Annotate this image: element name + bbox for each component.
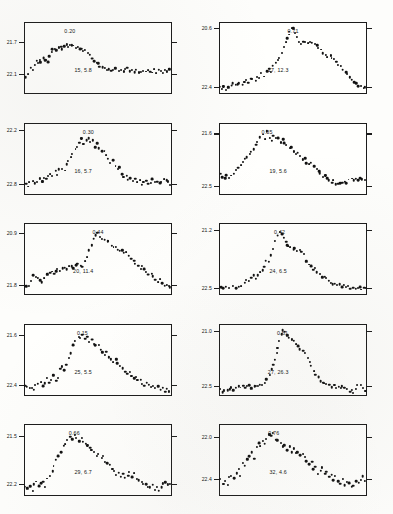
data-point [155, 72, 157, 74]
data-point [150, 182, 152, 184]
data-point [222, 483, 224, 485]
data-point [112, 361, 114, 363]
data-point [348, 482, 351, 485]
data-point [276, 439, 279, 442]
data-point [66, 439, 68, 441]
data-point [280, 442, 282, 444]
data-point [240, 387, 242, 389]
data-point [94, 344, 97, 347]
data-point [58, 168, 60, 170]
data-point [151, 72, 153, 74]
data-point [235, 387, 237, 389]
data-point [246, 458, 248, 460]
data-point [145, 71, 147, 73]
data-point [70, 157, 72, 159]
data-point [233, 477, 236, 480]
y-axis-tick-right [172, 385, 177, 386]
data-point [343, 484, 346, 487]
data-point [89, 141, 91, 143]
data-point [140, 268, 142, 270]
data-point [280, 141, 282, 143]
data-point [27, 73, 29, 75]
data-point [67, 46, 69, 48]
y-axis-tick-label: 21.2 [202, 227, 212, 233]
data-point [168, 390, 170, 392]
data-point [142, 483, 144, 485]
data-point [360, 85, 362, 87]
data-point [334, 475, 336, 477]
data-point [85, 260, 87, 262]
data-point [72, 344, 75, 347]
data-point [39, 61, 41, 63]
y-axis-tick-left [214, 230, 219, 231]
light-curve-panel: 21.622.40.1525, 5.5 [24, 324, 172, 396]
data-point [310, 162, 312, 164]
y-axis-tick-left [19, 335, 24, 336]
data-point [290, 146, 293, 149]
data-point [286, 37, 289, 40]
data-point [135, 69, 137, 71]
data-point [291, 451, 293, 453]
data-point [224, 177, 227, 180]
data-point [321, 49, 323, 51]
data-point [364, 390, 366, 392]
data-point [59, 368, 61, 370]
data-point [275, 62, 277, 64]
data-point [276, 352, 278, 354]
data-point [81, 437, 83, 439]
data-point [26, 487, 28, 489]
data-point [310, 365, 312, 367]
data-point [137, 479, 140, 482]
data-point [51, 51, 53, 53]
y-axis-tick-label: 22.4 [202, 476, 212, 482]
data-point [240, 285, 242, 287]
data-point [308, 463, 311, 466]
data-point [120, 69, 122, 71]
data-point [250, 151, 252, 153]
light-curve-panel: 21.522.20.6629, 6.7 [24, 424, 172, 496]
y-axis-tick-right [367, 288, 372, 289]
data-point [261, 269, 264, 272]
y-axis-tick-left [214, 479, 219, 480]
data-point [348, 179, 350, 181]
y-axis-tick-label: 22.2 [7, 481, 17, 487]
data-point [65, 268, 68, 271]
data-point [287, 336, 290, 339]
data-point [317, 473, 319, 475]
data-point [55, 379, 57, 381]
star-id-label: 29, 6.7 [74, 469, 92, 475]
data-point [117, 471, 119, 473]
data-point [27, 186, 29, 188]
data-point [38, 485, 41, 488]
data-point [240, 164, 242, 166]
data-point [96, 455, 98, 457]
data-point [255, 445, 257, 447]
data-point [118, 166, 120, 168]
data-point [127, 254, 130, 257]
data-point [133, 472, 135, 474]
data-point [88, 54, 90, 56]
data-point [54, 169, 56, 171]
data-point [316, 271, 319, 274]
data-point [296, 250, 298, 252]
light-curve-panel: 20.921.80.4420, 11.4 [24, 223, 172, 295]
data-point [93, 451, 95, 453]
data-point [309, 361, 311, 363]
data-point [332, 479, 335, 482]
data-point [91, 244, 93, 246]
y-axis-tick-left [19, 42, 24, 43]
amplitude-label: 0.20 [64, 28, 75, 34]
data-point [132, 180, 134, 182]
data-point [278, 340, 280, 342]
y-axis-tick-label: 21.0 [202, 328, 212, 334]
data-point [28, 181, 30, 183]
star-id-label: 24, 6.5 [269, 268, 287, 274]
data-point [164, 390, 166, 392]
data-point [288, 445, 290, 447]
data-point [247, 280, 249, 282]
data-point [314, 267, 316, 269]
y-axis-tick-label: 22.2 [7, 127, 17, 133]
data-point [29, 485, 32, 488]
data-point [61, 48, 63, 50]
data-point [136, 379, 138, 381]
